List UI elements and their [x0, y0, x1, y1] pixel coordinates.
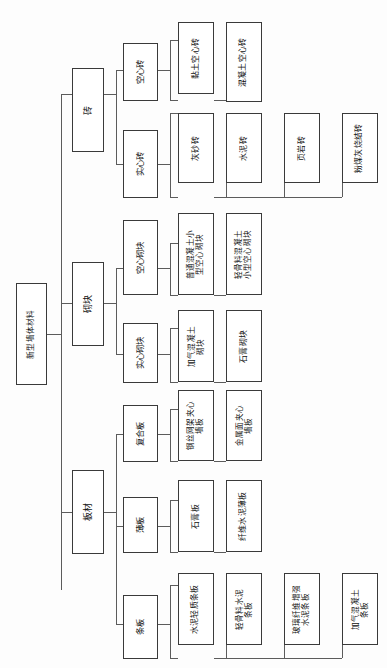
node-leaf-concrete-hollow-brick[interactable]: 混凝土空心砖 [226, 22, 262, 102]
node-leaf-lightweight-aggregate-cement-strip-board[interactable]: 轻骨料水泥 条板 [226, 573, 262, 645]
edge-strip-leaf4 [342, 645, 343, 658]
edge-solidbrick-leaf3 [284, 183, 285, 197]
node-leaf-aerated-concrete-strip-board-label: 加气混凝土 条板 [352, 589, 369, 630]
node-brick-label: 砖 [83, 105, 93, 114]
node-leaf-gypsum-board-label: 石膏板 [192, 504, 201, 529]
edge-composite-trunk [170, 409, 171, 461]
edge-strip-trunk [170, 585, 171, 658]
edge-strip-leaf3 [284, 645, 285, 658]
node-hollow-block[interactable]: 空心砌块 [123, 220, 158, 295]
edge-hollowbrick-leaf1 [170, 40, 178, 41]
edge-solidbrick-leaf-bus [170, 197, 178, 198]
edge-thin-trunk [170, 500, 171, 552]
edge-hollowbrick-trunk [170, 40, 171, 100]
node-block-label: 砌块 [83, 295, 93, 313]
edge-hollowblock-leaf2 [170, 295, 178, 296]
node-leaf-glass-fiber-reinforced-cement-strip-board-label: 玻璃纤维增强 水泥条板 [294, 584, 311, 633]
edge-root-to-brick [61, 94, 72, 95]
node-thin-panel-label: 薄板 [136, 517, 145, 533]
edge-composite-out [158, 434, 170, 435]
node-leaf-aerated-concrete-strip-board[interactable]: 加气混凝土 条板 [342, 573, 378, 645]
node-leaf-clay-hollow-brick[interactable]: 黏土空心砖 [178, 22, 214, 94]
edge-hollowbrick-leaf2b [214, 100, 226, 101]
node-strip-panel[interactable]: 条板 [123, 595, 158, 659]
node-brick[interactable]: 砖 [72, 68, 104, 152]
node-leaf-fiber-cement-thin-board[interactable]: 纤维水泥薄板 [226, 480, 262, 552]
node-panel-label: 板材 [83, 503, 93, 521]
edge-solidblock-trunk [170, 328, 171, 382]
edge-solidblock-out [158, 354, 170, 355]
edge-strip-bus [170, 658, 178, 659]
node-panel[interactable]: 板材 [72, 470, 104, 554]
edge-thin-leaf2 [170, 552, 178, 553]
edge-block-out [104, 303, 116, 304]
edge-thin-leaf1 [170, 500, 178, 501]
edge-solidbrick-leaf2 [226, 183, 227, 197]
edge-solidbrick-leaf1 [170, 113, 178, 114]
node-leaf-glass-fiber-reinforced-cement-strip-board[interactable]: 玻璃纤维增强 水泥条板 [284, 573, 320, 645]
node-solid-brick-label: 实心砖 [136, 152, 145, 177]
node-leaf-metal-faced-sandwich-wall-panel-label: 金属面夹心 墙板 [236, 405, 253, 446]
node-leaf-cement-lightweight-strip-board[interactable]: 水泥轻质条板 [178, 573, 214, 645]
diagram-canvas: 新型墙体材料 砖 砌块 板材 空心砖 实心砖 空心砌块 实心砌块 复合板 薄板 … [0, 0, 387, 668]
edge-solidbrick-bus-h [214, 197, 342, 198]
node-leaf-gypsum-block[interactable]: 石膏砌块 [226, 310, 262, 382]
node-block[interactable]: 砌块 [72, 262, 104, 346]
edge-solidblock-leaf1 [170, 328, 178, 329]
node-leaf-lime-sand-brick[interactable]: 灰砂砖 [178, 113, 214, 183]
edge-root-trunk [61, 94, 62, 590]
node-leaf-cement-brick-label: 水泥砖 [240, 136, 249, 161]
node-leaf-aerated-concrete-block[interactable]: 加气混凝土 砌块 [178, 310, 214, 382]
edge-strip-leaf2 [226, 645, 227, 658]
node-composite-panel-label: 复合板 [136, 421, 145, 446]
edge-hollowblock-leaf2b [214, 295, 226, 296]
edge-hollowblock-out [158, 268, 170, 269]
edge-thin-out [158, 526, 170, 527]
node-leaf-wire-mesh-sandwich-wall-panel[interactable]: 钢丝网架夹心 墙板 [178, 390, 214, 461]
edge-root-out [47, 334, 61, 335]
node-hollow-block-label: 空心砌块 [136, 241, 145, 274]
edge-hollowblock-trunk [170, 243, 171, 295]
node-solid-block[interactable]: 实心砌块 [123, 323, 158, 383]
node-leaf-lime-sand-brick-label: 灰砂砖 [192, 136, 201, 161]
edge-composite-leaf2 [170, 461, 178, 462]
node-composite-panel[interactable]: 复合板 [123, 405, 158, 462]
edge-solidbrick-trunk [170, 113, 171, 197]
node-leaf-flyash-sintered-brick[interactable]: 粉煤灰烧结砖 [342, 113, 378, 183]
node-leaf-cement-brick[interactable]: 水泥砖 [226, 113, 262, 183]
edge-hollowbrick-out [158, 70, 170, 71]
edge-strip-out [158, 624, 170, 625]
edge-solidbrick-leaf4 [342, 183, 343, 197]
edge-solidbrick-out [158, 164, 170, 165]
node-thin-panel[interactable]: 薄板 [123, 497, 158, 553]
edge-solidblock-leaf2b [214, 382, 226, 383]
node-leaf-shale-brick-label: 页岩砖 [298, 136, 307, 161]
edge-composite-leaf2b [214, 461, 226, 462]
edge-strip-leaf1 [170, 585, 178, 586]
edge-root-to-block [61, 303, 72, 304]
edge-brick-trunk [116, 70, 117, 164]
node-leaf-lightweight-aggregate-concrete-small-hollow-block[interactable]: 轻骨料混凝土 小型空心砌块 [226, 213, 262, 295]
node-root[interactable]: 新型墙体材料 [16, 283, 47, 385]
node-root-label: 新型墙体材料 [27, 309, 36, 358]
node-leaf-shale-brick[interactable]: 页岩砖 [284, 113, 320, 183]
node-hollow-brick[interactable]: 空心砖 [123, 43, 158, 101]
edge-hollowbrick-leaf2 [170, 100, 178, 101]
edge-solidblock-leaf2 [170, 382, 178, 383]
edge-root-to-panel [61, 512, 72, 513]
node-leaf-cement-lightweight-strip-board-label: 水泥轻质条板 [192, 584, 201, 633]
node-hollow-brick-label: 空心砖 [136, 60, 145, 85]
node-leaf-gypsum-board[interactable]: 石膏板 [178, 480, 214, 552]
node-leaf-wire-mesh-sandwich-wall-panel-label: 钢丝网架夹心 墙板 [188, 401, 205, 450]
node-leaf-concrete-hollow-brick-label: 混凝土空心砖 [240, 37, 249, 86]
node-leaf-lightweight-aggregate-cement-strip-board-label: 轻骨料水泥 条板 [236, 589, 253, 630]
edge-brick-out [104, 94, 116, 95]
node-leaf-metal-faced-sandwich-wall-panel[interactable]: 金属面夹心 墙板 [226, 390, 262, 461]
node-solid-brick[interactable]: 实心砖 [123, 130, 158, 198]
node-leaf-flyash-sintered-brick-label: 粉煤灰烧结砖 [356, 123, 365, 172]
node-strip-panel-label: 条板 [136, 619, 145, 635]
edge-panel-trunk [116, 434, 117, 624]
node-leaf-clay-hollow-brick-label: 黏土空心砖 [192, 38, 201, 79]
node-leaf-ordinary-concrete-small-hollow-block[interactable]: 普通混凝土小 型空心砌块 [178, 213, 214, 295]
edge-block-trunk [116, 268, 117, 354]
